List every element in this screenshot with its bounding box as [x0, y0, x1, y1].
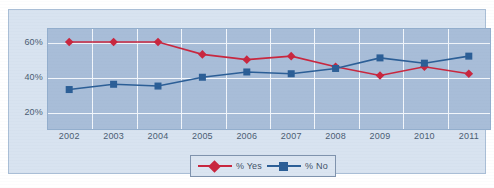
chart-figure: 20%40%60% 200220032004200520062007200820…: [0, 0, 494, 188]
data-point-square: [421, 60, 428, 67]
data-point-diamond: [109, 38, 118, 47]
data-point-diamond: [65, 38, 74, 47]
data-point-square: [155, 83, 162, 90]
legend-label-yes: % Yes: [236, 161, 262, 171]
legend-entry-yes: % Yes: [198, 160, 262, 172]
square-marker-icon: [279, 162, 288, 171]
data-point-square: [243, 68, 250, 75]
data-point-diamond: [465, 69, 474, 78]
chart-legend: % Yes % No: [190, 155, 336, 177]
x-axis-tick-label: 2002: [49, 131, 89, 141]
y-axis-tick-label: 60%: [9, 37, 43, 47]
data-point-square: [377, 54, 384, 61]
diamond-marker-icon: [208, 160, 221, 173]
data-point-diamond: [154, 38, 163, 47]
data-point-square: [66, 86, 73, 93]
data-point-diamond: [243, 55, 252, 64]
x-axis-tick-label: 2008: [316, 131, 356, 141]
x-axis-tick-label: 2006: [227, 131, 267, 141]
x-axis-tick-label: 2005: [182, 131, 222, 141]
x-axis-tick-label: 2004: [138, 131, 178, 141]
x-axis-tick-label: 2009: [360, 131, 400, 141]
y-axis-tick-label: 20%: [9, 107, 43, 117]
chart-panel: 20%40%60% 200220032004200520062007200820…: [8, 9, 486, 174]
data-point-square: [199, 74, 206, 81]
series-line: [69, 56, 469, 89]
x-axis-tick-label: 2011: [449, 131, 489, 141]
y-axis-tick-label: 40%: [9, 72, 43, 82]
data-point-diamond: [287, 52, 296, 61]
data-point-diamond: [376, 71, 385, 80]
legend-entry-no: % No: [267, 160, 328, 172]
data-point-square: [332, 65, 339, 72]
series-layer: [47, 28, 491, 130]
x-axis-tick-label: 2010: [404, 131, 444, 141]
data-point-square: [465, 53, 472, 60]
data-point-square: [288, 70, 295, 77]
legend-sample-no: [267, 160, 301, 172]
x-axis-tick-label: 2003: [94, 131, 134, 141]
series-line: [69, 42, 469, 75]
x-axis-tick-label: 2007: [271, 131, 311, 141]
legend-label-no: % No: [305, 161, 328, 171]
data-point-diamond: [198, 50, 207, 59]
legend-sample-yes: [198, 160, 232, 172]
data-point-square: [110, 81, 117, 88]
